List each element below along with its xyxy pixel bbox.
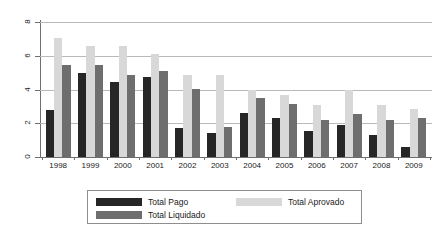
bar-group-2008 (365, 22, 397, 157)
x-axis-tick (74, 157, 75, 160)
bar-aprovado-2000 (119, 46, 127, 157)
bar-liquidado-1999 (95, 65, 103, 157)
legend-swatch-total-pago (96, 198, 142, 206)
x-axis-label-2008: 2008 (365, 160, 397, 174)
legend-item-total-liquidado: Total Liquidado (96, 209, 205, 220)
x-axis-tick (268, 157, 269, 160)
bar-liquidado-2006 (321, 120, 329, 157)
x-axis-label-2003: 2003 (204, 160, 236, 174)
bar-pago-2006 (304, 131, 312, 157)
legend-label-total-pago: Total Pago (148, 197, 188, 207)
bar-liquidado-2001 (159, 71, 167, 157)
y-axis-label: 6 (23, 48, 32, 62)
bar-aprovado-2006 (313, 105, 321, 157)
bar-aprovado-2002 (183, 75, 191, 157)
bar-liquidado-2002 (192, 89, 200, 157)
y-axis-label: 8 (23, 15, 32, 29)
bar-pago-2000 (110, 82, 118, 157)
legend-label-total-liquidado: Total Liquidado (148, 210, 205, 220)
bar-group-1998 (42, 22, 74, 157)
bar-aprovado-1998 (54, 38, 62, 157)
x-axis-label-1999: 1999 (74, 160, 106, 174)
bar-group-2005 (268, 22, 300, 157)
bar-aprovado-2009 (410, 109, 418, 157)
bar-aprovado-1999 (86, 46, 94, 157)
y-axis-tick (35, 157, 40, 158)
y-axis-label: 0 (23, 150, 32, 164)
x-axis-labels: 1998199920002001200220032004200520062007… (40, 160, 432, 174)
bar-group-2003 (204, 22, 236, 157)
bar-pago-1998 (46, 110, 54, 157)
bar-liquidado-2004 (256, 98, 264, 157)
bar-pago-2008 (369, 135, 377, 157)
bar-liquidado-2003 (224, 127, 232, 157)
bar-liquidado-2000 (127, 75, 135, 157)
x-axis-label-2002: 2002 (171, 160, 203, 174)
x-axis-label-2001: 2001 (139, 160, 171, 174)
legend-column-left: Total Pago Total Liquidado (96, 196, 205, 220)
bar-group-2009 (398, 22, 430, 157)
x-axis-label-2000: 2000 (107, 160, 139, 174)
x-axis-tick (430, 157, 431, 160)
bar-aprovado-2005 (280, 95, 288, 157)
x-axis-label-2006: 2006 (301, 160, 333, 174)
x-axis-tick (107, 157, 108, 160)
bar-pago-2004 (240, 113, 248, 157)
legend-label-total-aprovado: Total Aprovado (288, 197, 344, 207)
bar-pago-2007 (337, 125, 345, 157)
x-axis-label-2005: 2005 (268, 160, 300, 174)
chart-legend: Total Pago Total Liquidado Total Aprovad… (87, 190, 362, 224)
x-axis-tick (42, 157, 43, 160)
x-axis-tick (365, 157, 366, 160)
bar-liquidado-2008 (386, 120, 394, 157)
bar-group-1999 (74, 22, 106, 157)
legend-item-total-pago: Total Pago (96, 196, 205, 207)
bar-group-2000 (107, 22, 139, 157)
bar-group-2001 (139, 22, 171, 157)
bar-pago-2001 (143, 77, 151, 157)
x-axis-tick (171, 157, 172, 160)
x-axis-tick (204, 157, 205, 160)
legend-column-right: Total Aprovado (236, 196, 344, 207)
y-axis-label: 4 (23, 82, 32, 96)
bar-aprovado-2007 (345, 90, 353, 157)
x-axis-tick (236, 157, 237, 160)
x-axis-tick (301, 157, 302, 160)
x-axis-label-1998: 1998 (42, 160, 74, 174)
bar-liquidado-2009 (418, 118, 426, 157)
x-axis-tick (398, 157, 399, 160)
bar-group-2002 (171, 22, 203, 157)
y-axis-label: 2 (23, 116, 32, 130)
bar-group-2007 (333, 22, 365, 157)
bar-pago-2009 (401, 147, 409, 157)
bar-liquidado-1998 (62, 65, 70, 157)
bar-pago-1999 (78, 73, 86, 157)
bar-pago-2005 (272, 118, 280, 157)
x-axis-tick (333, 157, 334, 160)
x-axis-label-2009: 2009 (398, 160, 430, 174)
legend-swatch-total-liquidado (96, 211, 142, 219)
chart-container: 02468 1998199920002001200220032004200520… (0, 0, 448, 234)
x-axis-label-2007: 2007 (333, 160, 365, 174)
x-axis-tick (139, 157, 140, 160)
bar-pago-2002 (175, 128, 183, 157)
bar-group-2004 (236, 22, 268, 157)
legend-swatch-total-aprovado (236, 198, 282, 206)
bars-layer (40, 22, 432, 157)
bar-aprovado-2004 (248, 90, 256, 157)
bar-liquidado-2007 (353, 114, 361, 157)
bar-aprovado-2003 (216, 75, 224, 157)
legend-item-total-aprovado: Total Aprovado (236, 196, 344, 207)
x-axis-label-2004: 2004 (236, 160, 268, 174)
bar-liquidado-2005 (289, 104, 297, 157)
bar-pago-2003 (207, 133, 215, 157)
bar-aprovado-2008 (377, 105, 385, 157)
bar-group-2006 (301, 22, 333, 157)
bar-aprovado-2001 (151, 54, 159, 157)
